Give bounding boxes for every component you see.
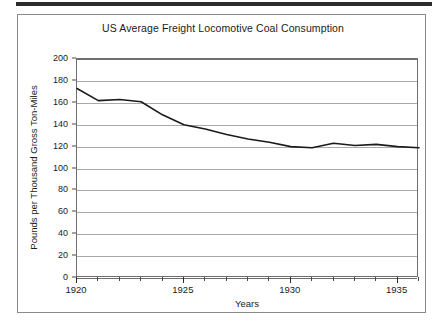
- series-polyline: [77, 89, 419, 148]
- y-axis-tick-label: 200: [53, 53, 68, 63]
- x-axis-tick-marks: [76, 277, 418, 283]
- x-axis-minor-tick-mark: [375, 277, 376, 281]
- y-axis-tick-label: 80: [58, 184, 68, 194]
- x-axis-major-tick-mark: [76, 277, 77, 283]
- chart-page: US Average Freight Locomotive Coal Consu…: [0, 0, 446, 334]
- x-axis-minor-tick-mark: [354, 277, 355, 281]
- x-axis-minor-tick-mark: [97, 277, 98, 281]
- x-axis-tick-label: 1935: [386, 284, 407, 295]
- chart-title: US Average Freight Locomotive Coal Consu…: [0, 22, 446, 34]
- x-axis-major-tick-mark: [183, 277, 184, 283]
- x-axis-minor-tick-mark: [333, 277, 334, 281]
- y-axis-tick-label: 120: [53, 141, 68, 151]
- x-axis-minor-tick-mark: [119, 277, 120, 281]
- x-axis-title: Years: [76, 298, 418, 309]
- x-axis-minor-tick-mark: [247, 277, 248, 281]
- x-axis-minor-tick-mark: [140, 277, 141, 281]
- x-axis-major-tick-mark: [397, 277, 398, 283]
- x-axis-minor-tick-mark: [162, 277, 163, 281]
- y-axis-tick-labels: 020406080100120140160180200: [0, 58, 76, 277]
- y-axis-tick-label: 40: [58, 228, 68, 238]
- x-axis-minor-tick-mark: [311, 277, 312, 281]
- y-axis-tick-label: 60: [58, 206, 68, 216]
- y-axis-tick-label: 180: [53, 75, 68, 85]
- x-axis-tick-label: 1930: [279, 284, 300, 295]
- y-axis-tick-label: 0: [63, 272, 68, 282]
- x-axis-minor-tick-mark: [204, 277, 205, 281]
- plot-area: [76, 58, 418, 277]
- x-axis-minor-tick-mark: [268, 277, 269, 281]
- y-axis-tick-label: 140: [53, 119, 68, 129]
- series-line-chart: [77, 59, 419, 278]
- x-axis-minor-tick-mark: [226, 277, 227, 281]
- y-axis-tick-label: 160: [53, 97, 68, 107]
- x-axis-minor-tick-mark: [418, 277, 419, 281]
- y-axis-tick-label: 100: [53, 163, 68, 173]
- y-axis-tick-label: 20: [58, 250, 68, 260]
- x-axis-tick-labels: 1920192519301935: [76, 284, 418, 298]
- top-divider-band: [16, 2, 432, 6]
- x-axis-major-tick-mark: [290, 277, 291, 283]
- x-axis-tick-label: 1925: [172, 284, 193, 295]
- x-axis-tick-label: 1920: [65, 284, 86, 295]
